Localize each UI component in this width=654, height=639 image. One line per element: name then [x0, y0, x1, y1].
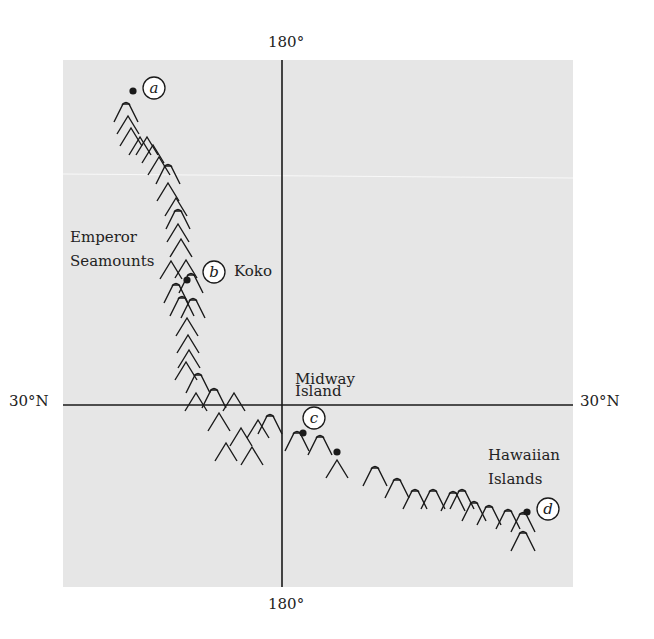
- sample-site-dot-d: [523, 508, 530, 515]
- seamount-map: abcd: [0, 0, 654, 639]
- seamount-icon: [247, 420, 269, 438]
- seamount-icon: [241, 447, 263, 465]
- guyot-icon: [363, 467, 387, 487]
- sample-site-dot-c: [299, 429, 306, 436]
- guyot-icon: [496, 510, 520, 530]
- guyot-icon: [258, 415, 282, 435]
- hawaiian-label-line1: Hawaiian: [488, 447, 560, 464]
- guyot-icon: [462, 502, 486, 522]
- scan-line: [63, 174, 573, 178]
- sample-site-dot-a: [129, 87, 136, 94]
- guyot-icon: [179, 274, 203, 294]
- meridian-bottom-label: 180°: [268, 596, 304, 613]
- seamount-icon: [230, 428, 252, 446]
- seamount-icon: [160, 261, 182, 279]
- site-label-b: b: [209, 263, 219, 281]
- parallel-left-label: 30°N: [9, 393, 49, 410]
- koko-label: Koko: [234, 263, 272, 280]
- meridian-top-label: 180°: [268, 34, 304, 51]
- seamount-icon: [185, 393, 207, 411]
- sample-site-dot-b: [183, 276, 190, 283]
- seamount-icon: [176, 318, 198, 336]
- seamount-icon: [136, 137, 158, 155]
- seamount-icon: [326, 460, 348, 478]
- guyot-icon: [164, 284, 188, 304]
- seamount-icon: [120, 128, 142, 146]
- midway-label-line2: Island: [295, 383, 342, 400]
- seamount-icon: [178, 350, 200, 368]
- parallel-right-label: 30°N: [580, 393, 620, 410]
- seamount-icon: [129, 137, 151, 155]
- site-label-d: d: [543, 500, 553, 518]
- seamount-icon: [208, 413, 230, 431]
- seamount-icon: [165, 198, 187, 216]
- seamount-icon: [167, 224, 189, 242]
- guyot-icon: [511, 513, 535, 533]
- guyot-icon: [186, 374, 210, 394]
- guyot-icon: [477, 506, 501, 526]
- sample-site-dot-extra: [333, 448, 340, 455]
- site-label-c: c: [310, 409, 319, 427]
- guyot-icon: [308, 436, 332, 456]
- emperor-label-line1: Emperor: [70, 229, 137, 246]
- site-label-a: a: [150, 79, 159, 97]
- guyot-icon: [385, 479, 409, 499]
- guyot-icon: [511, 532, 535, 552]
- seamount-chain: [114, 103, 535, 552]
- emperor-label-line2: Seamounts: [70, 253, 154, 270]
- seamount-icon: [223, 393, 245, 411]
- seamount-icon: [215, 443, 237, 461]
- guyot-icon: [421, 490, 445, 510]
- guyot-icon: [166, 210, 190, 230]
- hawaiian-label-line2: Islands: [488, 471, 542, 488]
